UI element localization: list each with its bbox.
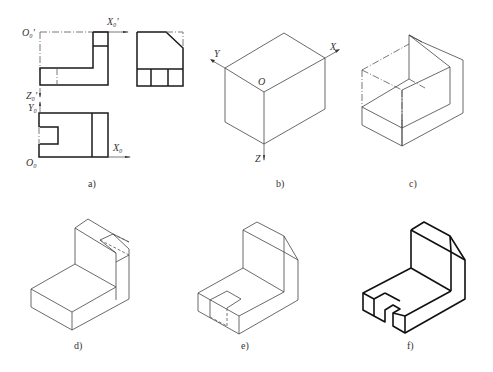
axis-label-o: O (258, 76, 265, 87)
caption-e: e) (241, 340, 249, 352)
axis-label-x-prime: X₀′ (106, 16, 120, 27)
axis-label-x: X (329, 41, 337, 52)
panel-a-orthographic: O₀′ X₀′ Z₀′ Y₀ X₀ O₀ a) (22, 16, 183, 190)
axis-label-o-prime: O₀′ (22, 27, 36, 38)
caption-a: a) (88, 178, 96, 190)
axis-label-y0: Y₀ (28, 102, 38, 113)
panel-f-final-drawing: f) (363, 222, 465, 352)
axis-label-y: Y (214, 48, 221, 59)
panel-e-slot-construction: e) (198, 222, 298, 352)
caption-f: f) (407, 340, 414, 352)
caption-d: d) (74, 340, 82, 352)
top-view: X₀ O₀ (26, 113, 131, 168)
figure-canvas: O₀′ X₀′ Z₀′ Y₀ X₀ O₀ a) (0, 0, 493, 372)
front-view: O₀′ X₀′ (22, 16, 129, 85)
axis-label-x0: X₀ (112, 142, 123, 153)
axis-label-z: Z (255, 153, 261, 164)
axis-label-o0: O₀ (26, 157, 37, 168)
panel-d-chamfer-construction: d) (31, 219, 129, 352)
caption-c: c) (409, 178, 417, 190)
panel-c-l-cut: c) (362, 35, 463, 190)
axis-label-z-prime: Z₀′ (26, 90, 38, 101)
caption-b: b) (276, 178, 284, 190)
panel-b-axes-box: Y X Z O b) (210, 33, 340, 190)
side-view (137, 32, 183, 86)
